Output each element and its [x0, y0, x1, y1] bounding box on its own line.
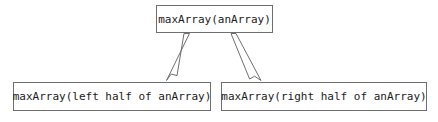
node-max-array-root[interactable]: maxArray(anArray) [156, 5, 273, 33]
node-max-array-right-half[interactable]: maxArray(right half of anArray) [221, 82, 427, 111]
recursion-diagram: maxArray(anArray) maxArray(left half of … [0, 0, 438, 122]
node-max-array-left-half[interactable]: maxArray(left half of anArray) [13, 82, 211, 111]
node-left-label: maxArray(left half of anArray) [13, 90, 212, 103]
node-root-label: maxArray(anArray) [158, 13, 271, 26]
node-right-label: maxArray(right half of anArray) [221, 90, 426, 103]
edge-root-to-right [231, 34, 261, 81]
edge-root-to-left [167, 34, 190, 81]
